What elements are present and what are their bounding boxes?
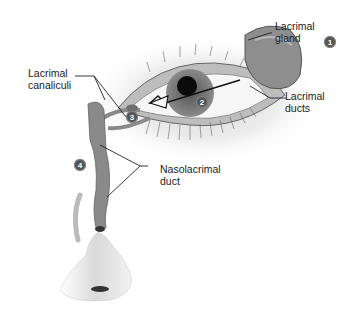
step-badge-3: 3 <box>126 111 138 123</box>
label-lacrimal-gland: Lacrimal gland <box>275 20 315 44</box>
label-lacrimal-ducts: Lacrimal ducts <box>285 90 325 114</box>
label-nasolacrimal-duct: Nasolacrimal duct <box>160 163 221 187</box>
step-badge-1: 1 <box>324 36 336 48</box>
lacrimal-diagram: Lacrimal gland Lacrimal ducts Lacrimal c… <box>0 0 359 318</box>
pupil <box>177 76 197 96</box>
step-badge-2: 2 <box>196 96 208 108</box>
label-lacrimal-canaliculi: Lacrimal canaliculi <box>28 67 71 91</box>
step-badge-4: 4 <box>74 159 86 171</box>
anatomy-illustration <box>0 0 359 318</box>
